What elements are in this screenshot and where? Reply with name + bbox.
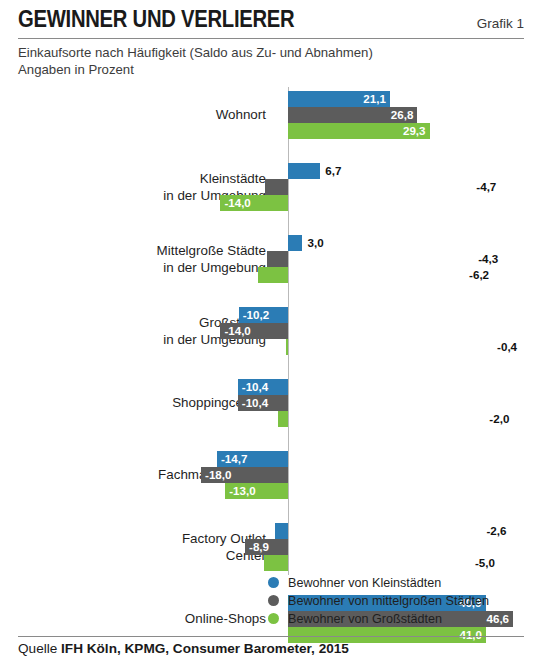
bar-value-label: 29,3: [403, 125, 426, 137]
legend-label: Bewohner von Kleinstädten: [288, 576, 441, 590]
legend-label: Bewohner von Großstädten: [288, 612, 442, 626]
legend-label: Bewohner von mittelgroßen Städten: [288, 594, 489, 608]
bar-value-label: -2,0: [489, 413, 509, 425]
figure-number: Grafik 1: [477, 16, 524, 33]
bar-row: -2,0: [288, 411, 524, 427]
bar-row: -2,6: [288, 523, 524, 539]
bar-value-label: 41,0: [459, 629, 482, 641]
bar-bewohner-von-mittelgro-en-st-dten: -8,9: [245, 539, 288, 555]
legend-color-swatch: [268, 613, 279, 624]
bar-row: -4,7: [288, 179, 524, 195]
bar-bewohner-von-kleinst-dten: [288, 163, 320, 179]
bar-bewohner-von-kleinst-dten: [288, 235, 302, 251]
bar-group: Wohnort21,126,829,3: [288, 91, 524, 139]
legend-color-swatch: [268, 577, 279, 588]
bar-row: 26,8: [288, 107, 524, 123]
category-label: Wohnort: [38, 106, 288, 123]
bar-value-label: -14,0: [224, 325, 250, 337]
bar-value-label: -6,2: [469, 269, 489, 281]
chart-legend: Bewohner von KleinstädtenBewohner von mi…: [268, 574, 489, 628]
bar-value-label: -4,7: [476, 181, 496, 193]
bar-row: 6,7: [288, 163, 524, 179]
bar-bewohner-von-gro-st-dten: [286, 339, 288, 355]
bar-value-label: -10,4: [242, 397, 268, 409]
bar-group: Mittelgroße Städte in der Umgebung3,0-4,…: [288, 235, 524, 283]
bar-row: -13,0: [288, 483, 524, 499]
bar-bewohner-von-mittelgro-en-st-dten: -18,0: [201, 467, 288, 483]
bar-value-label: -14,7: [221, 453, 247, 465]
bar-bewohner-von-mittelgro-en-st-dten: -10,4: [238, 395, 288, 411]
bar-value-label: -10,2: [243, 309, 269, 321]
bar-bewohner-von-mittelgro-en-st-dten: [265, 179, 288, 195]
header: GEWINNER UND VERLIERER Grafik 1: [18, 0, 524, 33]
bar-group: Factory Outlet Center-2,6-8,9-5,0: [288, 523, 524, 571]
bar-bewohner-von-kleinst-dten: [275, 523, 288, 539]
bar-value-label: -4,3: [478, 253, 498, 265]
bar-row: 21,1: [288, 91, 524, 107]
bar-value-label: 21,1: [363, 93, 386, 105]
bar-value-label: -13,0: [229, 485, 255, 497]
bar-bewohner-von-kleinst-dten: -14,7: [217, 451, 288, 467]
bar-row: -14,0: [288, 323, 524, 339]
bar-bewohner-von-kleinst-dten: -10,2: [239, 307, 288, 323]
bar-chart: Wohnort21,126,829,3Kleinstädte in der Um…: [18, 87, 524, 579]
bar-row: -0,4: [288, 339, 524, 355]
bar-row: -4,3: [288, 251, 524, 267]
bar-bewohner-von-gro-st-dten: -13,0: [225, 483, 288, 499]
bar-row: -10,4: [288, 379, 524, 395]
bar-bewohner-von-gro-st-dten: -14,0: [220, 195, 288, 211]
bar-row: -14,7: [288, 451, 524, 467]
bar-bewohner-von-gro-st-dten: [258, 267, 288, 283]
bar-bewohner-von-mittelgro-en-st-dten: -14,0: [220, 323, 288, 339]
bar-bewohner-von-mittelgro-en-st-dten: [267, 251, 288, 267]
bar-bewohner-von-gro-st-dten: 29,3: [288, 123, 430, 139]
bar-value-label: -14,0: [224, 197, 250, 209]
bar-bewohner-von-kleinst-dten: -10,4: [238, 379, 288, 395]
legend-item-grossstaedte[interactable]: Bewohner von Großstädten: [268, 610, 489, 627]
legend-item-kleinstaedte[interactable]: Bewohner von Kleinstädten: [268, 574, 489, 591]
footer-divider: [18, 636, 524, 637]
bar-value-label: -5,0: [475, 557, 495, 569]
bar-group: Fachmarktzentren-14,7-18,0-13,0: [288, 451, 524, 499]
bar-group: Kleinstädte in der Umgebung6,7-4,7-14,0: [288, 163, 524, 211]
bar-value-label: 6,7: [325, 165, 341, 177]
bar-group: Großstädte in der Umgebung-10,2-14,0-0,4: [288, 307, 524, 355]
source-prefix: Quelle: [18, 641, 61, 656]
bar-row: -18,0: [288, 467, 524, 483]
bar-bewohner-von-mittelgro-en-st-dten: 26,8: [288, 107, 417, 123]
bar-bewohner-von-gro-st-dten: [264, 555, 288, 571]
bar-value-label: -18,0: [205, 469, 231, 481]
page-title: GEWINNER UND VERLIERER: [18, 6, 294, 33]
bar-row: 29,3: [288, 123, 524, 139]
chart-page: GEWINNER UND VERLIERER Grafik 1 Einkaufs…: [0, 0, 542, 658]
bar-value-label: -10,4: [242, 381, 268, 393]
bar-value-label: -0,4: [497, 341, 517, 353]
category-label: Mittelgroße Städte in der Umgebung: [38, 242, 288, 276]
bar-value-label: 3,0: [307, 237, 323, 249]
chart-subtitle: Einkaufsorte nach Häufigkeit (Saldo aus …: [18, 39, 524, 79]
source-text: IFH Köln, KPMG, Consumer Barometer, 2015: [61, 641, 349, 656]
subtitle-line-2: Angaben in Prozent: [18, 61, 524, 78]
bar-value-label: 46,6: [486, 613, 509, 625]
bar-bewohner-von-gro-st-dten: [278, 411, 288, 427]
bar-row: -5,0: [288, 555, 524, 571]
bar-value-label: 26,8: [391, 109, 414, 121]
source-note: Quelle IFH Köln, KPMG, Consumer Baromete…: [18, 641, 349, 656]
bar-group: Shoppingcenter-10,4-10,4-2,0: [288, 379, 524, 427]
bar-value-label: -2,6: [486, 525, 506, 537]
bar-value-label: -8,9: [249, 541, 269, 553]
subtitle-line-1: Einkaufsorte nach Häufigkeit (Saldo aus …: [18, 44, 524, 61]
bar-bewohner-von-kleinst-dten: 21,1: [288, 91, 390, 107]
bar-row: -14,0: [288, 195, 524, 211]
bar-row: 3,0: [288, 235, 524, 251]
legend-color-swatch: [268, 595, 279, 606]
category-label: Online-Shops: [38, 610, 288, 627]
bar-row: -10,2: [288, 307, 524, 323]
bar-row: -8,9: [288, 539, 524, 555]
bar-row: -10,4: [288, 395, 524, 411]
bar-row: -6,2: [288, 267, 524, 283]
legend-item-mittelgrosse[interactable]: Bewohner von mittelgroßen Städten: [268, 592, 489, 609]
